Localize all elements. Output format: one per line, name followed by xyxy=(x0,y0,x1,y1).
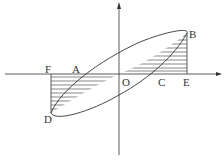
label-F: F xyxy=(45,64,51,75)
label-D: D xyxy=(44,114,52,125)
x-axis-arrow-icon xyxy=(216,72,222,76)
label-O: O xyxy=(122,77,130,88)
label-C: C xyxy=(158,77,165,88)
hysteresis-diagram xyxy=(0,0,224,160)
label-E: E xyxy=(183,77,190,88)
label-B: B xyxy=(189,29,196,40)
label-A: A xyxy=(72,64,80,75)
hatch-lower xyxy=(40,77,130,109)
hatch-upper xyxy=(100,36,200,71)
y-axis-arrow-icon xyxy=(117,2,121,9)
